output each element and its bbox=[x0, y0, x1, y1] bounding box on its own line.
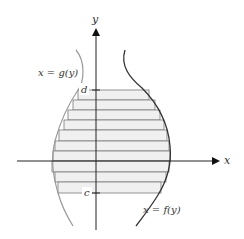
curve-f-label: x = f(y) bbox=[143, 204, 181, 215]
tick-label-c: c bbox=[84, 187, 90, 198]
strip bbox=[55, 172, 166, 182]
horizontal-strips bbox=[52, 90, 170, 193]
y-axis-arrow-icon bbox=[92, 28, 100, 36]
region-between-curves-diagram: y x d c x = g(y) x = f(y) bbox=[0, 0, 244, 239]
x-axis-label: x bbox=[224, 154, 231, 167]
strip bbox=[55, 141, 169, 151]
strip bbox=[53, 151, 170, 161]
strip bbox=[58, 182, 161, 193]
strip bbox=[73, 100, 155, 110]
strip bbox=[59, 130, 167, 141]
strip bbox=[68, 110, 160, 120]
strip bbox=[52, 161, 169, 172]
strip bbox=[64, 120, 164, 130]
curve-g-label: x = g(y) bbox=[38, 67, 78, 78]
x-axis-arrow-icon bbox=[212, 157, 220, 165]
tick-label-d: d bbox=[81, 84, 87, 95]
y-axis-label: y bbox=[91, 13, 99, 26]
